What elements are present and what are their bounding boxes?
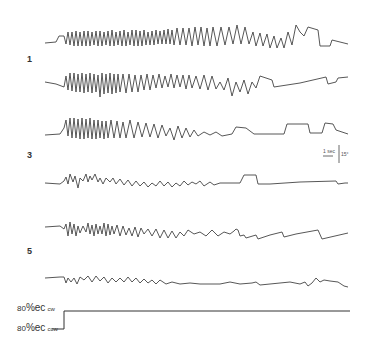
trace-2 [45,73,348,97]
cw-unit: %ec [26,302,45,313]
trace-6 [45,276,348,287]
scale-angle-label: 15° [341,151,349,157]
ccw-direction: ccw [48,326,58,332]
stimulus-ccw-label: 80%ec ccw [17,322,58,333]
trace-3 [45,118,348,140]
ccw-unit: %ec [26,322,45,333]
ccw-value: 80 [17,324,26,333]
traces-svg [0,0,367,357]
trace-label-3: 3 [27,150,32,160]
stimulus-cw-label: 80%ec cw [17,302,55,313]
trace-label-5: 5 [27,246,32,256]
scale-time-label: 1 sec [323,148,335,154]
trace-label-1: 1 [27,54,32,64]
cw-direction: cw [48,306,55,312]
stimulus-trace [52,311,350,329]
trace-4 [45,174,348,188]
trace-1 [45,25,348,48]
trace-5 [45,222,348,239]
cw-value: 80 [17,304,26,313]
